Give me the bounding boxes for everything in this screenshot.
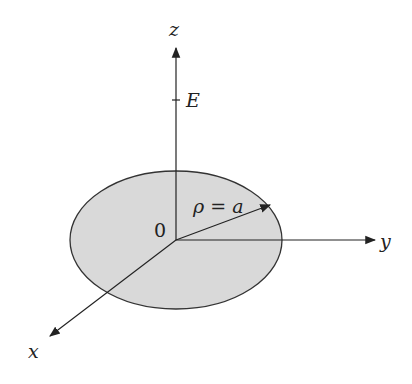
z-axis-label: z <box>168 18 180 40</box>
y-axis-label: y <box>379 230 391 252</box>
radius-label: ρ = a <box>192 195 244 217</box>
origin-label: 0 <box>154 219 166 241</box>
e-field-label: E <box>185 89 200 111</box>
disk-field-diagram: z E y x 0 ρ = a <box>0 0 412 384</box>
x-axis-label: x <box>28 340 39 362</box>
